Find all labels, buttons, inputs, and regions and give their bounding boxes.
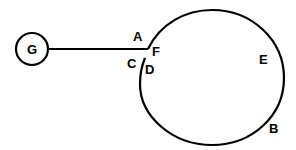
main-loop (140, 10, 284, 145)
label-g: G (27, 42, 37, 57)
label-d: D (145, 62, 154, 77)
label-f: F (152, 44, 160, 59)
label-b: B (269, 121, 278, 136)
label-c: C (127, 56, 137, 71)
label-a: A (133, 29, 143, 44)
label-e: E (259, 52, 268, 67)
diagram-canvas: G A F C D E B (0, 0, 296, 150)
